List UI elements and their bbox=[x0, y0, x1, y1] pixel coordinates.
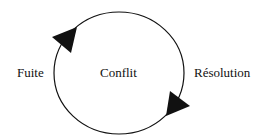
arrowhead-lower-right-icon bbox=[166, 91, 190, 116]
label-fuite: Fuite bbox=[17, 65, 44, 81]
label-resolution: Résolution bbox=[194, 65, 250, 81]
label-conflit: Conflit bbox=[100, 65, 137, 81]
arrowhead-upper-left-icon bbox=[52, 27, 77, 53]
